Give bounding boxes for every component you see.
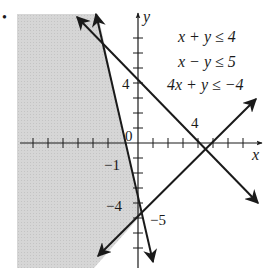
x-axis-label: x (251, 146, 259, 163)
label-neg1: −1 (104, 157, 120, 173)
y-tick-label-4: 4 (122, 76, 130, 92)
x-tick-label-4: 4 (191, 115, 199, 131)
shaded-solution-region (17, 14, 141, 268)
inequality-1: x + y ≤ 4 (177, 28, 236, 46)
y-tick-label-neg5: −5 (150, 212, 166, 228)
y-tick-label-neg4: −4 (106, 198, 122, 214)
y-axis-label: y (141, 8, 151, 26)
bullet-marker: • (2, 10, 7, 25)
inequality-2: x − y ≤ 5 (177, 53, 236, 71)
origin-label: 0 (125, 128, 133, 144)
inequality-3: 4x + y ≤ −4 (167, 76, 244, 94)
